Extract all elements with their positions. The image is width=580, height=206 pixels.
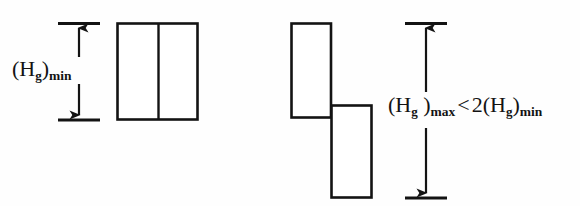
right-label-qualifier-min: min (520, 104, 543, 119)
right-staggered-rectangles (292, 24, 372, 198)
left-label-symbol: H (19, 56, 35, 81)
right-label-open-paren-2: ( (483, 92, 490, 117)
right-lower-rectangle (332, 106, 372, 198)
right-label-symbol-subscript: g (411, 104, 418, 119)
right-label-factor: 2 (472, 92, 483, 117)
left-label-symbol-subscript: g (35, 68, 42, 83)
left-label-close-paren: ) (42, 56, 49, 81)
left-label-qualifier: min (49, 68, 72, 83)
right-label-symbol-2: H (490, 92, 506, 117)
right-upper-rectangle (292, 24, 332, 118)
right-label-symbol-2-subscript: g (506, 104, 513, 119)
right-label-qualifier-max: max (431, 104, 456, 119)
less-than-operator: < (455, 92, 471, 117)
left-split-rectangle (118, 24, 198, 120)
right-label-symbol: H (395, 92, 411, 117)
right-label-close-paren-2: ) (512, 92, 519, 117)
right-dimension-label: (Hg )max<2(Hg)min (388, 94, 542, 116)
left-dimension-label: (Hg)min (12, 58, 72, 80)
gauge-height-figure: (Hg)min (Hg )max<2(Hg)min (0, 0, 580, 206)
right-label-close-paren: ) (423, 92, 430, 117)
